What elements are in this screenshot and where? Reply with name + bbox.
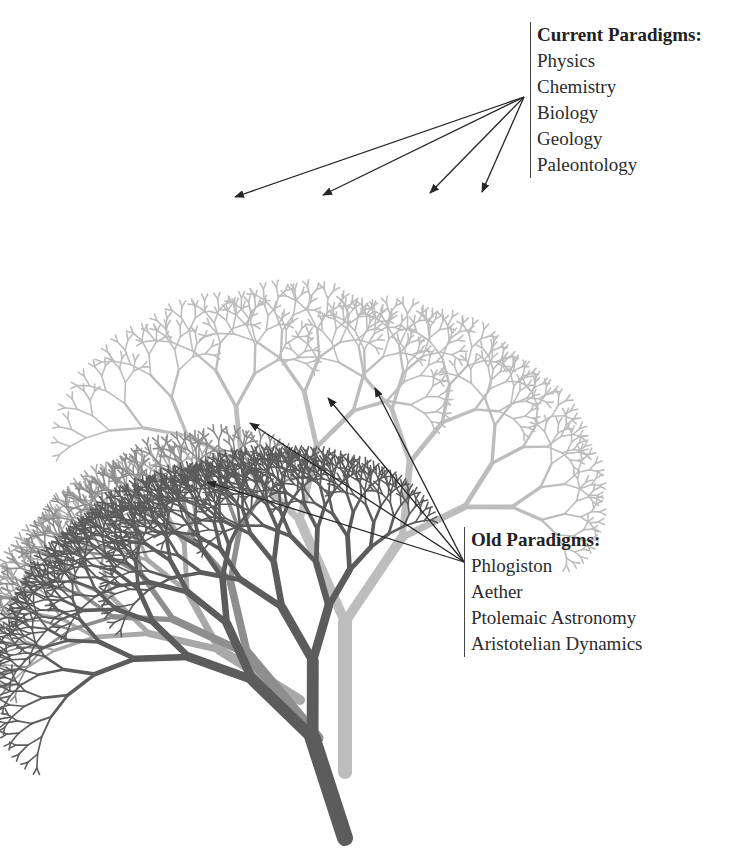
old-paradigms-title: Old Paradigms: bbox=[471, 527, 643, 553]
legend-item-aether: Aether bbox=[471, 579, 643, 605]
current-paradigm-arrow-0 bbox=[235, 97, 524, 197]
legend-item-biology: Biology bbox=[537, 100, 702, 126]
current-paradigm-arrow-3 bbox=[482, 97, 524, 192]
current-paradigms-title: Current Paradigms: bbox=[537, 22, 702, 48]
legend-item-paleontology: Paleontology bbox=[537, 152, 702, 178]
legend-item-aristotelian-dynamics: Aristotelian Dynamics bbox=[471, 631, 643, 657]
current-paradigms-legend: Current Paradigms: Physics Chemistry Bio… bbox=[530, 22, 702, 178]
current-paradigm-arrow-1 bbox=[323, 97, 524, 195]
legend-item-geology: Geology bbox=[537, 126, 702, 152]
old-paradigms-legend: Old Paradigms: Phlogiston Aether Ptolema… bbox=[464, 527, 643, 657]
legend-item-ptolemaic-astronomy: Ptolemaic Astronomy bbox=[471, 605, 643, 631]
legend-item-phlogiston: Phlogiston bbox=[471, 553, 643, 579]
legend-item-physics: Physics bbox=[537, 48, 702, 74]
legend-item-chemistry: Chemistry bbox=[537, 74, 702, 100]
current-paradigm-arrow-2 bbox=[430, 97, 524, 193]
